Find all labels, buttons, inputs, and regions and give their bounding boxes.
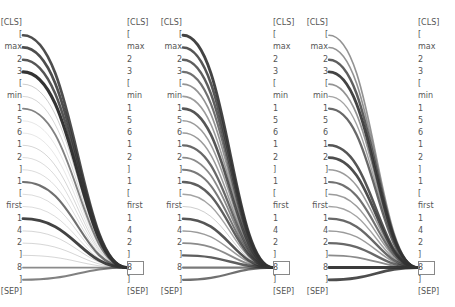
attention-link bbox=[23, 268, 127, 280]
destination-token: ] bbox=[127, 250, 130, 260]
destination-token: 1 bbox=[127, 140, 132, 150]
destination-token: [CLS] bbox=[127, 18, 148, 28]
destination-token: 1 bbox=[127, 177, 132, 187]
destination-token: 1 bbox=[127, 104, 132, 114]
destination-token: 5 bbox=[273, 116, 278, 126]
source-token: [ bbox=[179, 79, 182, 89]
source-token: 1 bbox=[17, 177, 22, 187]
source-token: max bbox=[311, 42, 328, 52]
destination-token: 2 bbox=[418, 153, 423, 163]
source-token: 2 bbox=[177, 153, 182, 163]
source-token: 8 bbox=[17, 263, 22, 273]
destination-token: 1 bbox=[273, 140, 278, 150]
source-token: 1 bbox=[17, 214, 22, 224]
source-token: [SEP] bbox=[307, 287, 328, 297]
destination-token: 1 bbox=[418, 140, 423, 150]
destination-token: [SEP] bbox=[273, 287, 294, 297]
destination-token: 4 bbox=[127, 226, 132, 236]
target-highlight-box bbox=[127, 261, 144, 275]
source-token: 2 bbox=[323, 238, 328, 248]
source-token: 8 bbox=[177, 263, 182, 273]
source-token: 1 bbox=[323, 140, 328, 150]
destination-token: 5 bbox=[418, 116, 423, 126]
panel-2 bbox=[183, 35, 273, 280]
source-token: 1 bbox=[177, 140, 182, 150]
destination-token: ] bbox=[273, 275, 276, 285]
source-token: [ bbox=[325, 30, 328, 40]
destination-token: [SEP] bbox=[418, 287, 439, 297]
source-token: max bbox=[5, 42, 22, 52]
source-token: ] bbox=[19, 250, 22, 260]
source-token: 6 bbox=[177, 128, 182, 138]
destination-token: [ bbox=[127, 30, 130, 40]
destination-token: 3 bbox=[418, 67, 423, 77]
source-token: 2 bbox=[177, 238, 182, 248]
destination-token: 1 bbox=[273, 104, 278, 114]
source-token: min bbox=[7, 91, 22, 101]
source-token: max bbox=[165, 42, 182, 52]
destination-token: 2 bbox=[273, 153, 278, 163]
source-token: first bbox=[6, 201, 22, 211]
source-token: [ bbox=[325, 189, 328, 199]
source-token: ] bbox=[325, 250, 328, 260]
source-token: 3 bbox=[17, 67, 22, 77]
source-token: [ bbox=[179, 30, 182, 40]
source-token: [ bbox=[19, 189, 22, 199]
source-token: 1 bbox=[177, 214, 182, 224]
destination-token: 6 bbox=[127, 128, 132, 138]
source-token: [CLS] bbox=[161, 18, 182, 28]
destination-token: 2 bbox=[418, 238, 423, 248]
source-token: ] bbox=[325, 275, 328, 285]
destination-token: [ bbox=[273, 30, 276, 40]
destination-token: ] bbox=[418, 275, 421, 285]
source-token: ] bbox=[179, 250, 182, 260]
destination-token: first bbox=[127, 201, 143, 211]
source-token: 2 bbox=[17, 153, 22, 163]
destination-token: 6 bbox=[418, 128, 423, 138]
destination-token: 2 bbox=[273, 55, 278, 65]
source-token: ] bbox=[19, 275, 22, 285]
destination-token: ] bbox=[273, 165, 276, 175]
destination-token: 3 bbox=[273, 67, 278, 77]
source-token: 5 bbox=[17, 116, 22, 126]
destination-token: 2 bbox=[418, 55, 423, 65]
source-token: ] bbox=[325, 165, 328, 175]
source-token: 4 bbox=[177, 226, 182, 236]
attention-link bbox=[183, 268, 273, 280]
destination-token: [CLS] bbox=[418, 18, 439, 28]
destination-token: [ bbox=[127, 189, 130, 199]
destination-token: [ bbox=[418, 79, 421, 89]
source-token: 2 bbox=[17, 238, 22, 248]
source-token: 2 bbox=[17, 55, 22, 65]
destination-token: ] bbox=[127, 165, 130, 175]
source-token: 1 bbox=[17, 140, 22, 150]
destination-token: 1 bbox=[127, 214, 132, 224]
source-token: first bbox=[312, 201, 328, 211]
destination-token: 1 bbox=[418, 214, 423, 224]
source-token: 8 bbox=[323, 263, 328, 273]
attention-link bbox=[329, 268, 418, 280]
source-token: ] bbox=[179, 165, 182, 175]
source-token: 2 bbox=[177, 55, 182, 65]
source-token: [CLS] bbox=[307, 18, 328, 28]
panel-1 bbox=[23, 35, 127, 280]
destination-token: ] bbox=[273, 250, 276, 260]
source-token: 1 bbox=[323, 104, 328, 114]
destination-token: [ bbox=[127, 79, 130, 89]
attention-curves bbox=[0, 0, 455, 307]
destination-token: 2 bbox=[127, 55, 132, 65]
destination-token: 3 bbox=[127, 67, 132, 77]
source-token: 1 bbox=[177, 177, 182, 187]
destination-token: [CLS] bbox=[273, 18, 294, 28]
source-token: [CLS] bbox=[1, 18, 22, 28]
destination-token: 4 bbox=[273, 226, 278, 236]
destination-token: 1 bbox=[418, 177, 423, 187]
source-token: min bbox=[313, 91, 328, 101]
destination-token: ] bbox=[127, 275, 130, 285]
destination-token: [ bbox=[273, 189, 276, 199]
destination-token: first bbox=[273, 201, 289, 211]
attention-link bbox=[23, 158, 127, 268]
source-token: 1 bbox=[323, 214, 328, 224]
source-token: [ bbox=[19, 79, 22, 89]
destination-token: ] bbox=[418, 165, 421, 175]
